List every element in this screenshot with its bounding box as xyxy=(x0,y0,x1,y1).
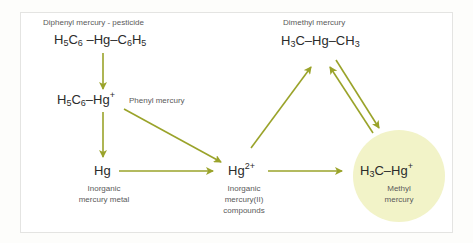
dimethyl-mercury-label: Dimethyl mercury xyxy=(283,17,345,28)
phenyl-mercury-formula: H5C6–Hg+ xyxy=(57,92,115,108)
diphenyl-mercury-label: Diphenyl mercury - pesticide xyxy=(43,17,144,28)
arrow-methyl-to-dimethyl xyxy=(330,67,373,133)
methyl-mercury-formula: H3C–Hg+ xyxy=(360,163,413,179)
diphenyl-mercury-formula: H5C6 –Hg–C6H5 xyxy=(54,32,146,48)
arrow-phenyl-to-hg2 xyxy=(124,109,221,162)
hg-metal-label: Inorganic mercury metal xyxy=(64,183,144,205)
dimethyl-mercury-formula: H3C–Hg–CH3 xyxy=(281,33,360,49)
arrow-hg2-to-dimethyl xyxy=(251,67,311,148)
methyl-mercury-label: Methyl mercury xyxy=(369,183,429,205)
arrow-dimethyl-to-methyl xyxy=(336,60,379,128)
hg-metal-formula: Hg xyxy=(94,163,111,179)
phenyl-mercury-label: Phenyl mercury xyxy=(129,95,185,106)
hg2-label: Inorganic mercury(II) compounds xyxy=(214,183,274,216)
hg2-formula: Hg2+ xyxy=(228,163,255,179)
